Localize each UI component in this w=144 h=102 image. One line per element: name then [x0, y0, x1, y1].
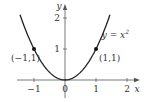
equation-base: y = x: [101, 30, 125, 40]
point-label: (1,1): [99, 53, 120, 63]
y-tick-label: 2: [54, 13, 60, 23]
point-label: (−1,1): [11, 53, 40, 63]
data-point: [94, 47, 98, 51]
x-tick-label: 2: [124, 84, 130, 94]
curve-equation-label: y = x2: [101, 28, 129, 40]
x-tick-label: 0: [62, 84, 68, 94]
x-axis-arrow: [134, 78, 140, 82]
parabola-chart: −101212xy(−1,1)(1,1)y = x2: [0, 0, 144, 102]
x-tick-label: 1: [93, 84, 99, 94]
equation-exponent: 2: [124, 28, 129, 35]
y-axis-label: y: [55, 1, 62, 11]
y-axis-arrow: [63, 4, 67, 10]
data-point: [32, 47, 36, 51]
x-axis-label: x: [134, 84, 139, 94]
x-tick-label: −1: [27, 84, 40, 94]
y-tick-label: 1: [54, 44, 60, 54]
